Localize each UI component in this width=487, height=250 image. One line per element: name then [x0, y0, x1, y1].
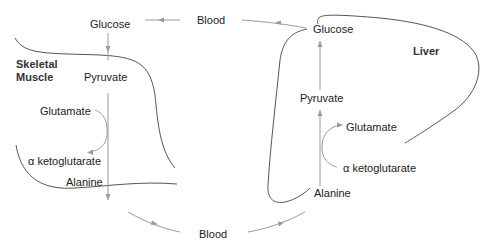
arrowhead-icon [275, 21, 281, 26]
muscle-pyruvate-label: Pyruvate [84, 71, 127, 83]
liver-pyruvate-label: Pyruvate [300, 92, 343, 104]
muscle-glutamate-label: Glutamate [40, 105, 91, 117]
liver-glutamate-label: Glutamate [346, 121, 397, 133]
arrowhead-icon [318, 41, 323, 47]
liver-membrane [268, 29, 310, 202]
muscle-glucose-label: Glucose [90, 18, 130, 30]
blood-bottom-label: Blood [199, 228, 227, 240]
arrowhead-icon [106, 194, 111, 200]
arrowhead-icon [318, 110, 323, 116]
muscle-label-line2: Muscle [16, 71, 53, 83]
liver-alanine-label: Alanine [314, 187, 351, 199]
muscle-alanine-label: Alanine [66, 176, 103, 188]
muscle-akg-label: α ketoglutarate [28, 155, 101, 167]
liver-akg-label: α ketoglutarate [343, 162, 416, 174]
blood-top-label: Blood [197, 14, 225, 26]
arrowhead-icon [337, 123, 343, 128]
muscle-label-line1: Skeletal [16, 58, 58, 70]
arrowhead-icon [158, 18, 164, 23]
liver-glucose-label: Glucose [313, 23, 353, 35]
glucose-alanine-cycle-diagram: Blood Blood Skeletal Muscle Glucose Pyru… [0, 0, 487, 250]
arrow-liver-glucose-to-blood [242, 20, 306, 28]
arrowhead-icon [106, 46, 111, 52]
liver-label: Liver [413, 45, 440, 57]
arrow-muscle-glutamate-to-akg [90, 110, 107, 152]
arrow-blood-to-liver-alanine [248, 212, 305, 232]
arrowhead-icon [151, 221, 158, 226]
arrow-liver-akg-to-glutamate [322, 125, 340, 167]
